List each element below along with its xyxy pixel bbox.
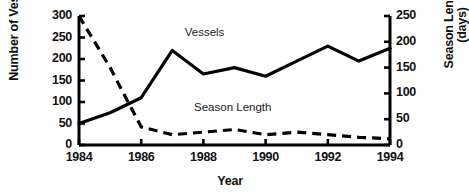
series-line-season-length (79, 16, 390, 139)
axis-lines (79, 16, 390, 145)
series-line-vessels (79, 46, 390, 123)
